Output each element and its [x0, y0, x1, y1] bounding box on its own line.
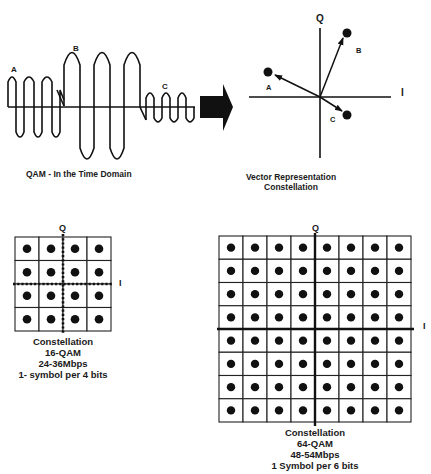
constellation-point [275, 267, 283, 275]
constellation-point [227, 290, 235, 298]
vector-label-c: C [330, 115, 336, 124]
constellation-point [227, 383, 235, 391]
constellation-point [251, 336, 259, 344]
constellation-point [347, 290, 355, 298]
constellation-point [251, 406, 259, 414]
qam16-caption-line1: Constellation [33, 336, 93, 347]
constellation-point [299, 336, 307, 344]
qam64-axis-i: I [423, 321, 426, 331]
vector-caption-line1: Vector Representation [246, 172, 336, 182]
constellation-point [299, 267, 307, 275]
constellation-point [71, 268, 80, 277]
right-arrow-icon [200, 84, 233, 131]
qam16-axis-q: Q [59, 223, 66, 233]
constellation-point [47, 315, 56, 324]
constellation-point [395, 360, 403, 368]
constellation-point [275, 406, 283, 414]
constellation-point [227, 243, 235, 251]
vector-a [275, 75, 320, 97]
vector-caption-line2: Constellation [264, 182, 318, 192]
constellation-point [371, 383, 379, 391]
constellation-point [395, 313, 403, 321]
label-b: B [73, 44, 79, 53]
constellation-point [275, 360, 283, 368]
constellation-point [395, 290, 403, 298]
qam16-grid [13, 234, 113, 334]
constellation-point [323, 313, 331, 321]
constellation-point [47, 244, 56, 253]
vector-axis-i: I [401, 87, 404, 98]
constellation-point [299, 383, 307, 391]
qam16-caption-line2: 16-QAM [45, 347, 81, 358]
constellation-point [251, 383, 259, 391]
constellation-point [47, 291, 56, 300]
constellation-point [299, 406, 307, 414]
time-domain-caption: QAM - In the Time Domain [26, 169, 132, 179]
constellation-point [23, 291, 32, 300]
constellation-point [275, 290, 283, 298]
constellation-point [323, 406, 331, 414]
constellation-point [95, 268, 104, 277]
constellation-point [323, 383, 331, 391]
constellation-point [347, 406, 355, 414]
vector-axes [249, 28, 391, 158]
vector-label-b: B [356, 46, 362, 55]
constellation-point [395, 336, 403, 344]
constellation-point [323, 290, 331, 298]
constellation-point [251, 243, 259, 251]
constellation-point [299, 360, 307, 368]
constellation-point [95, 291, 104, 300]
label-c: C [162, 82, 168, 91]
constellation-point [395, 267, 403, 275]
constellation-point [299, 313, 307, 321]
qam64-caption-line2: 64-QAM [297, 438, 333, 449]
constellation-point [275, 383, 283, 391]
point-b [343, 29, 352, 38]
constellation-point [371, 336, 379, 344]
constellation-point [371, 360, 379, 368]
vector-c [320, 97, 342, 111]
constellation-point [251, 290, 259, 298]
constellation-point [227, 360, 235, 368]
qam16-caption-line3: 24-36Mbps [38, 358, 87, 369]
vector-b [320, 38, 343, 97]
constellation-point [23, 268, 32, 277]
constellation-point [71, 315, 80, 324]
constellation-point [275, 336, 283, 344]
constellation-point [323, 267, 331, 275]
constellation-point [347, 336, 355, 344]
constellation-point [395, 406, 403, 414]
vector-arrows [275, 38, 343, 111]
constellation-point [371, 243, 379, 251]
constellation-point [323, 243, 331, 251]
constellation-point [95, 315, 104, 324]
constellation-point [323, 360, 331, 368]
point-c [343, 111, 352, 120]
qam16-axis-i: I [119, 278, 122, 288]
constellation-point [47, 268, 56, 277]
constellation-point [251, 267, 259, 275]
constellation-point [227, 267, 235, 275]
constellation-point [227, 313, 235, 321]
constellation-point [347, 267, 355, 275]
constellation-point [299, 243, 307, 251]
constellation-point [275, 313, 283, 321]
qam-diagram: A B C QAM - In the Time Domain Q I A B C… [0, 0, 431, 474]
qam64-caption-line3: 48-54Mbps [290, 449, 339, 460]
qam64-caption-line1: Constellation [285, 427, 345, 438]
qam64-grid [217, 233, 414, 426]
constellation-point [371, 267, 379, 275]
constellation-point [227, 406, 235, 414]
constellation-point [395, 243, 403, 251]
qam16-caption-line4: 1- symbol per 4 bits [18, 369, 107, 380]
time-domain-waveform [8, 53, 195, 160]
constellation-point [227, 336, 235, 344]
vector-label-a: A [266, 83, 272, 92]
constellation-point [299, 290, 307, 298]
constellation-point [71, 291, 80, 300]
constellation-point [71, 244, 80, 253]
point-a [264, 68, 273, 77]
constellation-point [347, 243, 355, 251]
constellation-point [371, 313, 379, 321]
constellation-point [251, 313, 259, 321]
